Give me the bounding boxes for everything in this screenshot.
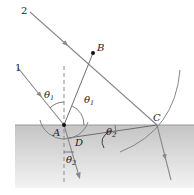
point-A [62, 123, 66, 127]
refraction-diagram: 2 1 B A C D θ1 θ1 θ2 θ2 [0, 0, 194, 195]
theta1-arc-incident [50, 102, 64, 108]
medium-2-region [15, 125, 194, 188]
point-C-label: C [153, 112, 161, 123]
point-B-label: B [96, 42, 104, 53]
theta1-arc-wavefront [72, 106, 84, 125]
ray-2-label: 2 [21, 5, 27, 16]
theta1-label-incident: θ1 [44, 89, 54, 102]
wavefront-AB [64, 53, 93, 125]
ray-1-label: 1 [15, 62, 21, 73]
ray-2 [30, 12, 157, 125]
point-D-label: D [74, 137, 83, 148]
point-A-label: A [52, 127, 60, 138]
theta1-label-wavefront: θ1 [84, 94, 94, 107]
point-B [91, 51, 95, 55]
ray-1 [18, 68, 64, 125]
